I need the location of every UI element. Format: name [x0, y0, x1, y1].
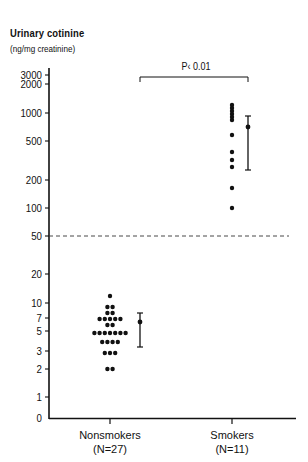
data-point — [97, 331, 101, 335]
data-point — [105, 323, 109, 327]
data-point — [230, 186, 234, 190]
nonsmokers-points — [92, 294, 128, 371]
category-n: (N=11) — [187, 442, 277, 456]
data-point — [110, 305, 114, 309]
data-point — [105, 340, 109, 344]
data-point — [103, 351, 107, 355]
smokers-points — [230, 103, 234, 210]
category-n: (N=27) — [65, 442, 155, 456]
data-point — [113, 351, 117, 355]
data-point — [108, 351, 112, 355]
data-point — [110, 323, 114, 327]
data-point — [230, 165, 234, 169]
data-point — [116, 340, 120, 344]
data-point — [97, 317, 101, 321]
data-point — [105, 367, 109, 371]
data-point — [92, 331, 96, 335]
data-point — [108, 331, 112, 335]
data-point — [100, 340, 104, 344]
category-name: Nonsmokers — [65, 428, 155, 442]
plot-area — [0, 0, 308, 462]
category-name: Smokers — [187, 428, 277, 442]
data-point — [105, 311, 109, 315]
mean-marker — [138, 320, 143, 325]
mean-marker — [246, 125, 251, 130]
data-point — [108, 294, 112, 298]
x-label-nonsmokers: Nonsmokers (N=27) — [65, 428, 155, 456]
error-bars — [137, 116, 251, 347]
significance-bracket — [140, 77, 248, 82]
data-point — [110, 367, 114, 371]
data-point — [230, 206, 234, 210]
data-point — [118, 331, 122, 335]
data-point — [230, 158, 234, 162]
x-label-smokers: Smokers (N=11) — [187, 428, 277, 456]
data-point — [230, 150, 234, 154]
data-point — [103, 331, 107, 335]
data-point — [113, 317, 117, 321]
data-point — [113, 331, 117, 335]
data-point — [105, 305, 109, 309]
data-point — [118, 317, 122, 321]
data-point — [123, 331, 127, 335]
data-point — [103, 317, 107, 321]
data-point — [230, 118, 234, 122]
data-point — [230, 133, 234, 137]
data-point — [110, 311, 114, 315]
data-point — [110, 340, 114, 344]
data-point — [108, 317, 112, 321]
